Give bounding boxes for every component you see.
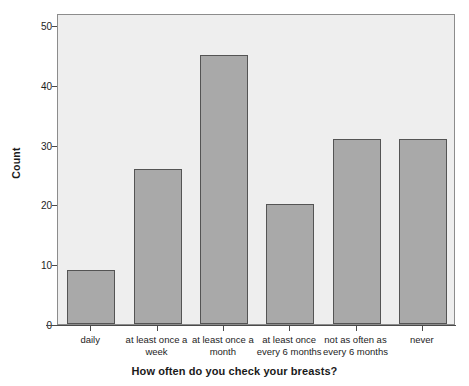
x-axis-tick-mark bbox=[422, 326, 423, 331]
x-axis-tick-label-line: daily bbox=[57, 334, 123, 346]
x-axis-tick-mark bbox=[90, 326, 91, 331]
y-axis-title: Count bbox=[4, 0, 28, 325]
y-axis-title-label: Count bbox=[10, 147, 22, 178]
y-axis-tick-label: 40 bbox=[41, 80, 52, 91]
x-axis-tick-label-line: at least once bbox=[256, 334, 322, 346]
x-axis-tick-label: at least once aweek bbox=[124, 334, 190, 358]
x-axis-tick-label-line: every 6 months bbox=[256, 346, 322, 358]
bars-layer bbox=[58, 15, 454, 324]
y-axis-tick-label: 50 bbox=[41, 20, 52, 31]
x-axis-tick-mark bbox=[157, 326, 158, 331]
x-axis-tick-label-line: at least once a bbox=[190, 334, 256, 346]
bar bbox=[134, 169, 182, 325]
x-axis-tick-label-line: never bbox=[389, 334, 455, 346]
y-axis-tick-label: 10 bbox=[41, 260, 52, 271]
bar bbox=[200, 55, 248, 324]
y-axis-tick-label: 30 bbox=[41, 140, 52, 151]
x-axis-tick-mark bbox=[289, 326, 290, 331]
x-axis-tick-label: at least once amonth bbox=[190, 334, 256, 358]
x-axis-tick-mark bbox=[356, 326, 357, 331]
x-axis-tick-label-line: not as often as bbox=[323, 334, 389, 346]
bar bbox=[399, 139, 447, 324]
x-axis-title: How often do you check your breasts? bbox=[0, 365, 469, 377]
plot-area bbox=[57, 14, 455, 325]
bar bbox=[266, 204, 314, 324]
x-axis-tick-label-line: at least once a bbox=[124, 334, 190, 346]
bar-chart: Count 01020304050 dailyat least once awe… bbox=[0, 0, 469, 386]
x-axis-tick-mark bbox=[223, 326, 224, 331]
x-axis-tick-label: not as often asevery 6 months bbox=[323, 334, 389, 358]
y-axis-tick-label: 20 bbox=[41, 200, 52, 211]
bar bbox=[67, 270, 115, 324]
x-axis-tick-label: at least onceevery 6 months bbox=[256, 334, 322, 358]
bar bbox=[333, 139, 381, 324]
x-axis-tick-label-line: month bbox=[190, 346, 256, 358]
x-axis-tick-label-line: every 6 months bbox=[323, 346, 389, 358]
x-axis-line bbox=[46, 325, 456, 326]
y-axis-tick-labels: 01020304050 bbox=[26, 0, 52, 386]
x-axis-tick-label-line: week bbox=[124, 346, 190, 358]
x-axis-tick-label: daily bbox=[57, 334, 123, 346]
x-axis-tick-label: never bbox=[389, 334, 455, 346]
